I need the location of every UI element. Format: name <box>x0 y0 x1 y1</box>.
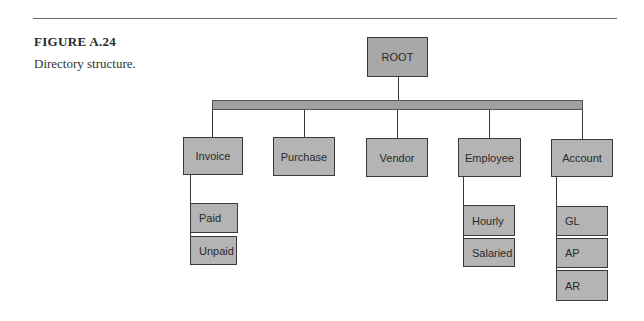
node-invoice-label: Invoice <box>196 150 231 162</box>
top-rule <box>33 18 617 19</box>
node-gl: GL <box>556 206 608 236</box>
figure-caption: Directory structure. <box>34 56 136 72</box>
node-purchase: Purchase <box>273 137 335 176</box>
node-salaried-label: Salaried <box>472 247 512 259</box>
connector-purchase <box>304 110 305 137</box>
figure-label: FIGURE A.24 <box>34 34 116 50</box>
node-invoice: Invoice <box>183 137 243 175</box>
node-paid-label: Paid <box>199 212 221 224</box>
node-root: ROOT <box>367 37 428 77</box>
node-ar-label: AR <box>565 280 580 292</box>
node-account-label: Account <box>562 152 602 164</box>
node-unpaid: Unpaid <box>190 236 237 265</box>
node-hourly-label: Hourly <box>472 215 504 227</box>
connector-account <box>582 110 583 139</box>
node-unpaid-label: Unpaid <box>199 245 234 257</box>
connector-root-bar <box>398 77 399 100</box>
node-ar: AR <box>556 270 608 301</box>
level-bar <box>212 100 583 110</box>
node-employee-label: Employee <box>465 152 514 164</box>
node-paid: Paid <box>190 203 238 233</box>
connector-invoice <box>212 110 213 137</box>
node-vendor: Vendor <box>366 138 428 177</box>
node-hourly: Hourly <box>463 205 515 236</box>
node-ap-label: AP <box>565 247 580 259</box>
node-gl-label: GL <box>565 215 580 227</box>
node-salaried: Salaried <box>463 238 515 267</box>
node-purchase-label: Purchase <box>281 151 327 163</box>
node-account: Account <box>551 139 613 177</box>
node-ap: AP <box>556 238 608 268</box>
node-vendor-label: Vendor <box>380 152 415 164</box>
connector-vendor <box>397 110 398 138</box>
node-employee: Employee <box>458 138 521 177</box>
connector-employee <box>489 110 490 138</box>
node-root-label: ROOT <box>382 51 414 63</box>
